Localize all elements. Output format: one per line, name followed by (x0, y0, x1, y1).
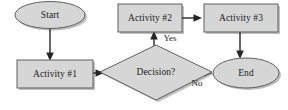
edge-activity3-to-end (236, 31, 244, 59)
node-end[interactable]: End (213, 58, 279, 88)
decision-node-label: Decision? (137, 67, 176, 77)
activity2-node-label: Activity #2 (128, 13, 172, 23)
edge-label-no: No (192, 78, 203, 88)
end-node-label: End (238, 68, 254, 78)
flowchart-canvas: Start Activity #1 Decision? Activity #2 … (0, 0, 288, 110)
edge-activity2-to-activity3 (181, 14, 202, 22)
node-decision[interactable]: Decision? (100, 45, 212, 100)
edge-start-to-activity1 (46, 28, 54, 61)
node-activity2[interactable]: Activity #2 (118, 4, 182, 32)
flowchart-svg: Start Activity #1 Decision? Activity #2 … (0, 0, 288, 110)
node-activity3[interactable]: Activity #3 (204, 4, 278, 32)
node-activity1[interactable]: Activity #1 (17, 60, 93, 88)
activity1-node-label: Activity #1 (33, 69, 77, 79)
arrow-head-icon (194, 14, 203, 22)
start-node-label: Start (41, 10, 60, 20)
activity3-node-label: Activity #3 (219, 13, 263, 23)
node-start[interactable]: Start (15, 2, 85, 29)
edge-label-yes: Yes (163, 33, 177, 43)
